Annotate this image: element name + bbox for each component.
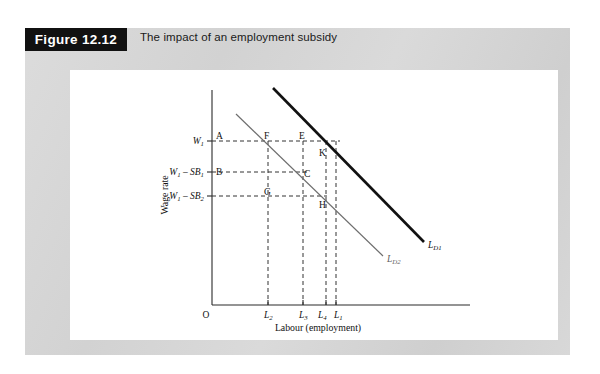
point-label-e: E [299,131,305,141]
point-label-b: B [216,167,222,177]
demand-curve-ld2 [236,114,383,256]
y-label-w1-sb2: W1 – SB2 [169,191,204,202]
x-label-l1: L1 [333,310,343,321]
economics-line-chart: LD1 LD2 W1 W1 – SB1 W1 – SB2 O L2 L3 L4 … [0,0,600,374]
point-label-a: A [216,131,223,141]
curve-label-ld1: LD1 [427,240,442,251]
point-label-k: K [319,148,326,158]
point-label-c: C [304,169,310,179]
x-axis-title: Labour (employment) [275,322,361,334]
curve-label-ld2: LD2 [386,254,401,265]
point-label-g: G [264,187,271,197]
point-label-h: H [319,200,326,210]
demand-curve-ld1 [273,88,424,242]
figure-container: Figure 12.12 The impact of an employment… [0,0,600,374]
x-label-l4: L4 [317,310,327,321]
y-axis-title: Wage rate [159,175,170,215]
y-label-w1: W1 [193,136,204,147]
y-label-w1-sb1: W1 – SB1 [169,167,204,178]
point-label-f: F [264,131,269,141]
axis-origin-label: O [203,310,210,320]
x-label-l3: L3 [298,310,308,321]
x-label-l2: L2 [263,310,273,321]
